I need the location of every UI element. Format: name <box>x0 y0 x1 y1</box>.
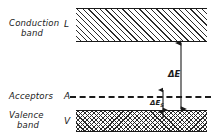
valence-band-label-line1: Valence <box>9 110 44 120</box>
valence-band-symbol: V <box>64 116 70 126</box>
delta-es-subscript: S <box>160 102 164 108</box>
delta-es-label: ΔES <box>150 99 164 108</box>
valence-band-label: Valence band <box>9 110 44 130</box>
conduction-band-symbol: L <box>64 19 69 29</box>
conduction-band-region <box>76 8 207 42</box>
conduction-band-label-line1: Conduction <box>9 18 59 28</box>
acceptors-label: Acceptors <box>9 91 53 101</box>
valence-band-label-line2: band <box>9 120 39 130</box>
acceptor-level-dashed-line <box>70 96 211 98</box>
delta-e-label: ΔE <box>168 69 180 79</box>
valence-band-region <box>76 110 207 132</box>
delta-es-main-text: ΔE <box>150 99 160 107</box>
energy-band-diagram: Conduction band L Acceptors A Valence ba… <box>0 0 217 140</box>
conduction-band-label-line2: band <box>9 28 43 38</box>
conduction-band-label: Conduction band <box>9 18 59 38</box>
